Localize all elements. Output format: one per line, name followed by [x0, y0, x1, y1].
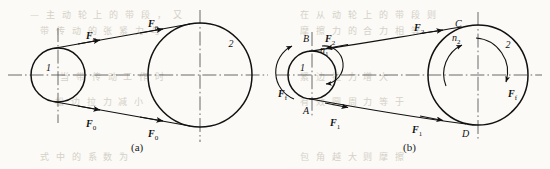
point-b-panel-b: B	[303, 33, 309, 44]
n2-rotation-arc	[444, 45, 462, 86]
pulley-label-2-panel-b: 2	[506, 39, 511, 50]
f1-tight-near-panel-b: F1	[330, 117, 340, 131]
pulley-label-2-panel-a: 2	[229, 38, 234, 49]
caption-panel-a: (a)	[131, 141, 143, 153]
belt-lower-a	[53, 102, 190, 127]
n2-speed-panel-b: n2	[452, 32, 461, 46]
f0-bottom-left-panel-a: F0	[86, 118, 96, 132]
point-a-panel-b: A	[303, 105, 309, 116]
f0-top-right-panel-a: F0	[148, 18, 158, 32]
f0-bottom-right-panel-a: F0	[148, 128, 158, 142]
caption-panel-b: (b)	[403, 141, 416, 153]
f0-arrow-bottom-right	[140, 117, 163, 121]
f2-slack-far-panel-b: F2	[414, 22, 424, 36]
point-c-panel-b: C	[455, 18, 462, 29]
panel-b	[276, 12, 542, 140]
f0-arrow-bottom-left	[78, 106, 100, 110]
panel-a	[8, 10, 268, 142]
n1-speed-panel-b: n1	[320, 44, 329, 58]
belt-drive-figure	[0, 0, 550, 169]
point-d-panel-b: D	[462, 128, 469, 139]
pulley-label-1-panel-b: 1	[300, 62, 305, 73]
f1-tight-far-panel-b: F1	[412, 124, 422, 138]
f0-top-left-panel-a: F0	[86, 30, 96, 44]
belt-upper-a	[53, 24, 190, 49]
ff-driven-panel-b: Ff	[508, 88, 517, 102]
pulley-label-1-panel-a: 1	[46, 62, 51, 73]
ff-driving-panel-b: Ff	[278, 88, 287, 102]
